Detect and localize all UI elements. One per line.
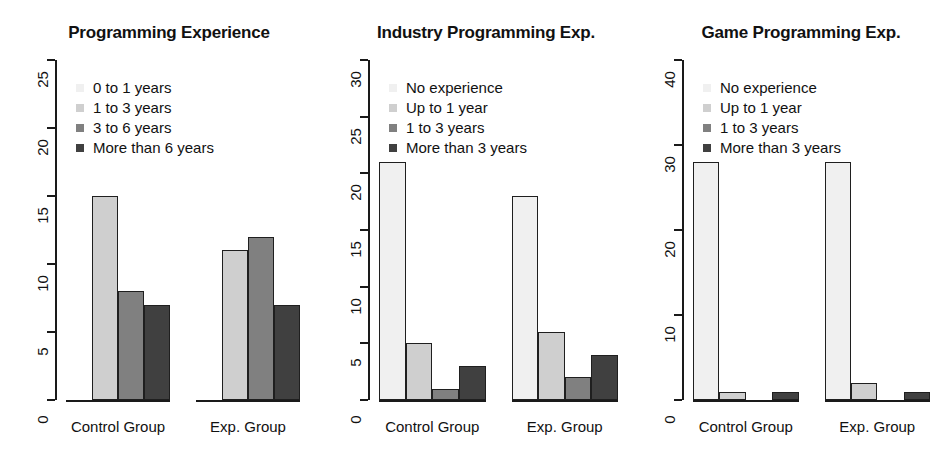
bar	[591, 355, 618, 400]
x-axis-group-label: Exp. Group	[807, 418, 940, 435]
y-axis-spine	[55, 60, 57, 400]
y-axis-tick-label: 30	[661, 145, 678, 185]
legend-swatch-icon	[389, 124, 397, 132]
legend-swatch-icon	[703, 144, 711, 152]
legend-swatch-icon	[389, 84, 397, 92]
y-axis-tick-label: 40	[661, 60, 678, 100]
legend-item: 1 to 3 years	[76, 98, 214, 117]
bar	[459, 366, 486, 400]
y-axis-tick-label: 5	[34, 332, 51, 372]
legend-item: No experience	[703, 78, 841, 97]
legend-item: More than 3 years	[703, 138, 841, 157]
plot-area: 0510152025Control GroupExp. Group	[0, 0, 310, 464]
plot-area: 051015202530Control GroupExp. Group	[310, 0, 630, 464]
plot-area: 010203040Control GroupExp. Group	[630, 0, 940, 464]
legend-item: More than 3 years	[389, 138, 527, 157]
y-axis-tick-label: 20	[347, 173, 364, 213]
legend-swatch-icon	[703, 124, 711, 132]
bar	[118, 291, 144, 400]
bar	[274, 305, 300, 400]
chart-panel-programming-experience: Programming Experience 0510152025Control…	[0, 0, 310, 464]
chart-panel-industry-programming-exp: Industry Programming Exp. 051015202530Co…	[310, 0, 630, 464]
x-axis-group-label: Control Group	[361, 418, 504, 435]
legend-swatch-icon	[76, 124, 84, 132]
bar	[406, 343, 433, 400]
bar	[538, 332, 565, 400]
y-axis-tick-label: 10	[34, 264, 51, 304]
legend-item-label: More than 3 years	[406, 138, 527, 157]
bar	[92, 196, 118, 400]
bar	[512, 196, 539, 400]
legend-item-label: No experience	[720, 78, 817, 97]
y-axis-spine	[682, 60, 684, 400]
y-axis-tick-label: 10	[347, 286, 364, 326]
legend-swatch-icon	[76, 84, 84, 92]
figure-panel-grid: Programming Experience 0510152025Control…	[0, 0, 940, 464]
bar	[144, 305, 170, 400]
legend-item-label: More than 6 years	[93, 138, 214, 157]
group-baseline	[512, 400, 619, 402]
bar	[851, 383, 877, 400]
legend-item-label: More than 3 years	[720, 138, 841, 157]
legend-item: 1 to 3 years	[389, 118, 527, 137]
legend-swatch-icon	[76, 104, 84, 112]
legend-item-label: 1 to 3 years	[406, 118, 484, 137]
bar	[904, 392, 930, 401]
y-axis-tick-label: 15	[347, 230, 364, 270]
legend-item-label: 1 to 3 years	[93, 98, 171, 117]
bar	[693, 162, 719, 400]
legend: 0 to 1 years1 to 3 years3 to 6 yearsMore…	[76, 78, 214, 157]
legend-item-label: 3 to 6 years	[93, 118, 171, 137]
legend-item-label: Up to 1 year	[720, 98, 802, 117]
bar	[432, 389, 459, 400]
y-axis-tick-label: 25	[34, 60, 51, 100]
legend-item: 0 to 1 years	[76, 78, 214, 97]
group-baseline	[196, 400, 300, 402]
legend-item: 3 to 6 years	[76, 118, 214, 137]
legend-item-label: 1 to 3 years	[720, 118, 798, 137]
chart-panel-game-programming-exp: Game Programming Exp. 010203040Control G…	[630, 0, 940, 464]
legend-item: Up to 1 year	[703, 98, 841, 117]
bar	[565, 377, 592, 400]
group-baseline	[693, 400, 799, 402]
legend: No experienceUp to 1 year1 to 3 yearsMor…	[389, 78, 527, 157]
group-baseline	[825, 400, 931, 402]
legend-swatch-icon	[76, 144, 84, 152]
legend-item: 1 to 3 years	[703, 118, 841, 137]
x-axis-group-label: Control Group	[48, 418, 188, 435]
legend: No experienceUp to 1 year1 to 3 yearsMor…	[703, 78, 841, 157]
legend-item: Up to 1 year	[389, 98, 527, 117]
bar	[379, 162, 406, 400]
legend-swatch-icon	[703, 84, 711, 92]
bar	[825, 162, 851, 400]
bar	[772, 392, 798, 401]
legend-item: No experience	[389, 78, 527, 97]
x-axis-group-label: Exp. Group	[494, 418, 637, 435]
legend-swatch-icon	[703, 104, 711, 112]
group-baseline	[379, 400, 486, 402]
x-axis-group-label: Control Group	[675, 418, 817, 435]
legend-item-label: No experience	[406, 78, 503, 97]
legend-item: More than 6 years	[76, 138, 214, 157]
y-axis-tick-label: 30	[347, 60, 364, 100]
x-axis-group-label: Exp. Group	[178, 418, 318, 435]
y-axis-tick-label: 15	[34, 196, 51, 236]
y-axis-tick-label: 20	[34, 128, 51, 168]
y-axis-tick-label: 25	[347, 116, 364, 156]
legend-item-label: Up to 1 year	[406, 98, 488, 117]
bar	[719, 392, 745, 401]
legend-swatch-icon	[389, 104, 397, 112]
y-axis-tick-label: 10	[661, 315, 678, 355]
bar	[222, 250, 248, 400]
legend-item-label: 0 to 1 years	[93, 78, 171, 97]
y-axis-tick-label: 5	[347, 343, 364, 383]
y-axis-spine	[368, 60, 370, 400]
legend-swatch-icon	[389, 144, 397, 152]
y-axis-tick-label: 20	[661, 230, 678, 270]
group-baseline	[66, 400, 170, 402]
bar	[248, 237, 274, 400]
